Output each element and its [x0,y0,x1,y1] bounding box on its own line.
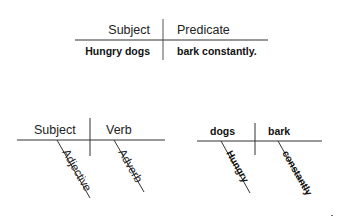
generic-subject: Subject [34,124,76,137]
subject-value: Hungry dogs [85,46,150,57]
predicate-header: Predicate [177,24,230,37]
artifact-dot [331,215,333,216]
diagram-lines [0,0,343,218]
subject-header: Subject [108,24,150,37]
predicate-value: bark constantly. [177,46,257,57]
example-subject: dogs [210,126,235,137]
generic-verb: Verb [106,124,132,137]
example-verb: bark [268,126,290,137]
